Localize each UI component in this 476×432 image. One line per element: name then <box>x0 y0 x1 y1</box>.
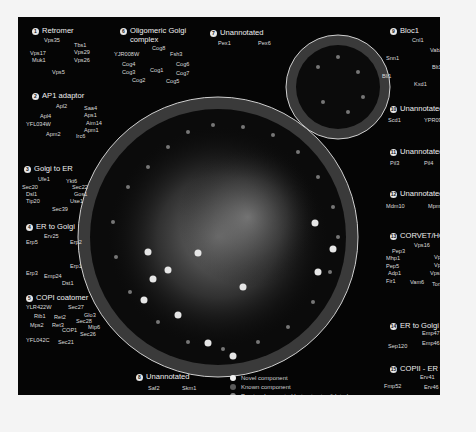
gene-label: Cog8 <box>152 45 165 51</box>
gene-label: Cog1 <box>150 67 163 73</box>
gene-label: YLR422W <box>26 304 52 310</box>
gene-label: Emp47 <box>422 330 440 336</box>
network-figure: 1Retromer Vps35 Tbs1 Vps29 Vps17 Muk1 Vp… <box>18 17 440 395</box>
gene-label: Pil3 <box>390 160 399 166</box>
gene-label: Vps8 <box>430 270 440 276</box>
gene-label: Mhp1 <box>386 255 400 261</box>
gene-label: Erp1 <box>70 263 82 269</box>
gene-label: Vps33 <box>434 254 440 260</box>
gene-label: Sec27 <box>68 304 84 310</box>
gene-label: Cog7 <box>176 70 189 76</box>
gene-label: Apl4 <box>40 113 51 119</box>
gene-label: Mdm10 <box>386 203 405 209</box>
gene-label: Cog6 <box>176 61 189 67</box>
gene-label: Dsl1 <box>26 191 37 197</box>
gene-label: Rib1 <box>34 313 46 319</box>
gene-label: Vps17 <box>30 50 46 56</box>
complex-title-1: 1Retromer <box>32 27 74 35</box>
gene-label: Bli1 <box>382 73 391 79</box>
gene-label: Vps16 <box>414 242 430 248</box>
complex-title-6: 6Oligomeric Golgi <box>120 27 186 35</box>
gene-label: Muk1 <box>32 57 46 63</box>
gene-label: Sec39 <box>52 206 68 212</box>
gene-label: Erp5 <box>26 239 38 245</box>
gene-label: YFL034W <box>26 121 51 127</box>
gene-label: Dst1 <box>62 280 74 286</box>
gene-label: Pex1 <box>218 40 231 46</box>
gene-label: Pex6 <box>258 40 271 46</box>
gene-label: Erv46 <box>424 384 439 390</box>
gene-label: Ret2 <box>54 314 66 320</box>
gene-label: Apl2 <box>56 103 67 109</box>
gene-label: Sec26 <box>80 331 96 337</box>
legend-known: Known component <box>230 384 291 390</box>
complex-title-6-line2: complex <box>130 36 158 44</box>
gene-label: Sec20 <box>22 184 38 190</box>
gene-label: Vam6 <box>410 279 424 285</box>
gene-label: Mps2 <box>30 322 44 328</box>
gene-label: Saa4 <box>84 105 97 111</box>
gene-label: Cog5 <box>166 78 179 84</box>
complex-title-13: 13CORVET/HOPS <box>390 232 440 240</box>
complex-title-11: 11Unannotated <box>390 148 440 156</box>
gene-label: Emp24 <box>44 273 62 279</box>
gene-label: COP1 <box>62 327 77 333</box>
gene-label: Emp46 <box>422 340 440 346</box>
known-dot-icon <box>230 384 236 390</box>
gene-label: Sec22 <box>72 184 88 190</box>
complex-title-4: 4ER to Golgi <box>26 223 75 231</box>
gene-label: Scd1 <box>388 117 401 123</box>
gene-label: Apm1 <box>84 127 99 133</box>
reported-dot-icon <box>230 393 236 395</box>
gene-label: Adp1 <box>388 270 401 276</box>
complex-title-5: 5COPI coatomer <box>26 294 88 302</box>
gene-label: Apm2 <box>46 131 61 137</box>
gene-label: Tbs1 <box>74 42 86 48</box>
gene-label: Tip20 <box>26 198 40 204</box>
complex-title-7: 7Unannotated <box>210 29 264 37</box>
gene-label: Vps26 <box>74 57 90 63</box>
gene-label: Vps35 <box>44 37 60 43</box>
gene-label: Vps5 <box>52 69 65 75</box>
gene-label: Cog4 <box>122 61 135 67</box>
gene-label: Irc6 <box>76 133 85 139</box>
gene-label: Tor2 <box>432 281 440 287</box>
legend-reported: Previously reported but not yet validate… <box>230 393 348 395</box>
gene-label: Cnl1 <box>412 37 424 43</box>
gene-label: Erp2 <box>70 239 82 245</box>
gene-label: Erp3 <box>26 270 38 276</box>
gene-label: Vab2 <box>430 47 440 53</box>
gene-label: Aim14 <box>86 120 102 126</box>
gene-label: Fmp52 <box>384 383 401 389</box>
complex-title-12: 12Unannotated <box>390 190 440 198</box>
gene-label: Pil4 <box>424 160 433 166</box>
complex-title-14: 14ER to Golgi <box>390 322 439 330</box>
gene-label: Skm1 <box>182 385 196 391</box>
gene-label: YJR008W <box>114 51 139 57</box>
complex-title-9: 9Bloc1 <box>390 27 419 35</box>
complex-title-2: 2AP1 adaptor <box>32 92 84 100</box>
novel-dot-icon <box>230 375 236 381</box>
gene-label: Mip6 <box>88 324 100 330</box>
gene-label: Erv41 <box>420 374 435 380</box>
gene-label: Gos1 <box>74 191 87 197</box>
gene-label: Vps29 <box>74 49 90 55</box>
complex-title-10: 10Unannotated <box>390 105 440 113</box>
complex-title-3: 3Golgi to ER <box>24 165 73 173</box>
gene-label: Sec21 <box>58 339 74 345</box>
gene-label: Cog3 <box>122 69 135 75</box>
gene-label: Kxd1 <box>414 81 427 87</box>
gene-label: Sep120 <box>388 343 407 349</box>
legend-novel: Novel component <box>230 375 288 381</box>
gene-label: Ufe1 <box>38 176 50 182</box>
gene-label: Saf2 <box>148 385 160 391</box>
complex-title-15: 15COPII - ER vesicle <box>390 365 440 373</box>
gene-label: Fir1 <box>386 278 396 284</box>
gene-label: Erv25 <box>44 233 59 239</box>
gene-label: Blt1 <box>432 64 440 70</box>
gene-label: Cog2 <box>132 77 145 83</box>
gene-label: Pep5 <box>386 263 399 269</box>
gene-label: Fsh3 <box>170 51 182 57</box>
gene-label: Pep3 <box>392 248 405 254</box>
network-graphic <box>18 17 440 395</box>
